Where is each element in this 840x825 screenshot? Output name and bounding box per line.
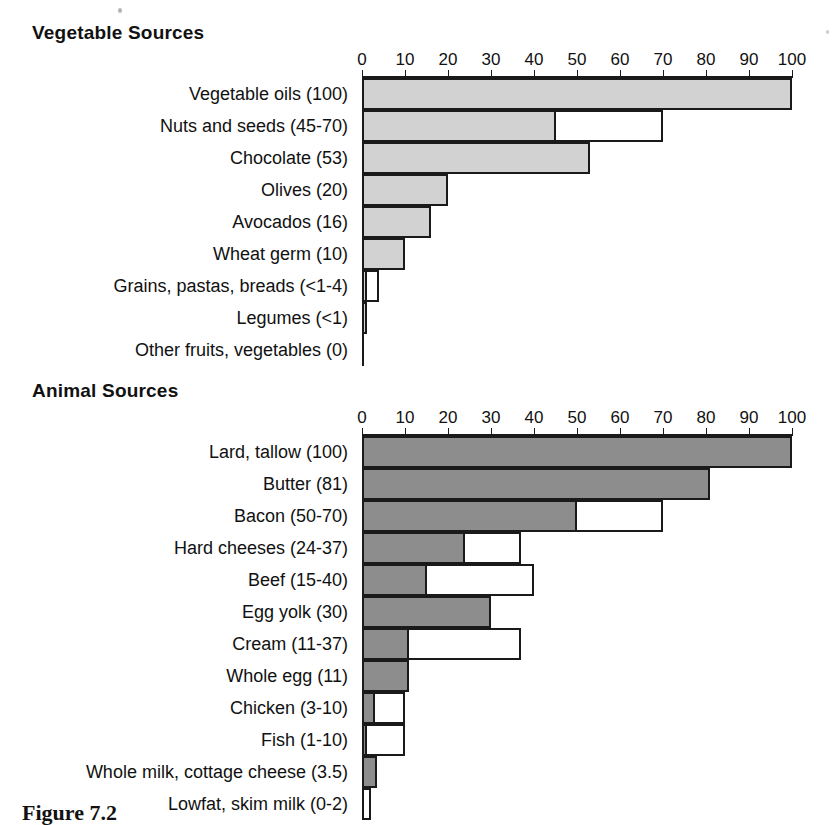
bar-value — [362, 468, 710, 500]
figure-caption: Figure 7.2 — [22, 800, 117, 825]
bar-row — [362, 596, 792, 628]
axis-tick-label: 90 — [740, 51, 759, 68]
category-label: Bacon (50-70) — [0, 500, 360, 532]
category-label: Fish (1-10) — [0, 724, 360, 756]
bar-row — [362, 500, 792, 532]
axis-tick-label: 100 — [778, 51, 806, 68]
category-label: Chicken (3-10) — [0, 692, 360, 724]
bar-row — [362, 78, 792, 110]
category-label: Other fruits, vegetables (0) — [0, 334, 360, 366]
bar-value — [362, 174, 448, 206]
axis-tick — [491, 428, 492, 436]
bar-row — [362, 468, 792, 500]
axis-tick-label: 40 — [525, 409, 544, 426]
axis-tick — [577, 70, 578, 78]
bar-row — [362, 302, 792, 334]
axis-tick — [620, 428, 621, 436]
axis-tick-label: 40 — [525, 51, 544, 68]
axis-tick-label: 60 — [611, 51, 630, 68]
bar-range-lower — [362, 724, 367, 756]
vegetable-bars — [362, 78, 792, 366]
bar-value — [362, 302, 367, 334]
bar-row — [362, 174, 792, 206]
bar-row — [362, 724, 792, 756]
vegetable-x-axis: 0102030405060708090100 — [362, 60, 792, 78]
axis-tick-label: 50 — [568, 409, 587, 426]
axis-tick-label: 80 — [697, 51, 716, 68]
bar-row — [362, 660, 792, 692]
axis-tick-label: 60 — [611, 409, 630, 426]
axis-tick — [362, 428, 363, 436]
category-label: Egg yolk (30) — [0, 596, 360, 628]
category-label: Legumes (<1) — [0, 302, 360, 334]
category-label: Grains, pastas, breads (<1-4) — [0, 270, 360, 302]
bar-value — [362, 596, 491, 628]
axis-tick — [620, 70, 621, 78]
category-label: Nuts and seeds (45-70) — [0, 110, 360, 142]
axis-tick — [405, 428, 406, 436]
bar-value — [362, 78, 792, 110]
axis-tick — [534, 428, 535, 436]
axis-tick — [362, 70, 363, 78]
axis-tick-label: 30 — [482, 51, 501, 68]
axis-tick-label: 30 — [482, 409, 501, 426]
axis-tick — [534, 70, 535, 78]
category-label: Whole egg (11) — [0, 660, 360, 692]
bar-value — [362, 756, 377, 788]
bar-value — [362, 436, 792, 468]
bar-range-lower — [362, 532, 465, 564]
axis-tick — [663, 428, 664, 436]
axis-tick — [491, 70, 492, 78]
animal-axis: 0102030405060708090100 — [362, 418, 792, 436]
bar-range-lower — [362, 628, 409, 660]
scan-speck-right-icon — [826, 30, 829, 34]
animal-bars — [362, 436, 792, 820]
bar-range-lower — [362, 564, 427, 596]
axis-tick — [663, 70, 664, 78]
axis-tick — [749, 70, 750, 78]
animal-x-axis: 0102030405060708090100 — [362, 418, 792, 436]
vegetable-category-labels: Vegetable oils (100)Nuts and seeds (45-7… — [0, 78, 348, 366]
category-label: Wheat germ (10) — [0, 238, 360, 270]
axis-tick — [706, 70, 707, 78]
bar-row — [362, 238, 792, 270]
axis-tick-label: 10 — [396, 409, 415, 426]
bar-row — [362, 110, 792, 142]
axis-tick-label: 100 — [778, 409, 806, 426]
category-label: Olives (20) — [0, 174, 360, 206]
category-label: Avocados (16) — [0, 206, 360, 238]
bar-row — [362, 756, 792, 788]
axis-tick-label: 90 — [740, 409, 759, 426]
axis-tick-label: 20 — [439, 51, 458, 68]
bar-range-upper — [362, 788, 371, 820]
category-label: Hard cheeses (24-37) — [0, 532, 360, 564]
bar-value — [362, 206, 431, 238]
bar-range-lower — [362, 110, 556, 142]
bar-row — [362, 564, 792, 596]
bar-row — [362, 334, 792, 366]
axis-tick-label: 80 — [697, 409, 716, 426]
animal-chart-title: Animal Sources — [32, 380, 178, 402]
axis-tick — [749, 428, 750, 436]
bar-range-lower — [362, 500, 577, 532]
bar-row — [362, 532, 792, 564]
bar-row — [362, 628, 792, 660]
bar-range-lower — [362, 270, 367, 302]
bar-value — [362, 142, 590, 174]
axis-tick-label: 50 — [568, 51, 587, 68]
axis-tick-label: 20 — [439, 409, 458, 426]
vegetable-chart-title: Vegetable Sources — [32, 22, 204, 44]
axis-tick — [448, 70, 449, 78]
axis-tick — [792, 428, 793, 436]
bar-row — [362, 206, 792, 238]
bar-row — [362, 692, 792, 724]
category-label: Whole milk, cottage cheese (3.5) — [0, 756, 360, 788]
bar-value — [362, 660, 409, 692]
axis-tick-label: 70 — [654, 409, 673, 426]
axis-tick — [405, 70, 406, 78]
bar-range-upper — [362, 724, 405, 756]
axis-tick — [706, 428, 707, 436]
bar-range-lower — [362, 692, 375, 724]
bar-row — [362, 270, 792, 302]
axis-tick — [577, 428, 578, 436]
